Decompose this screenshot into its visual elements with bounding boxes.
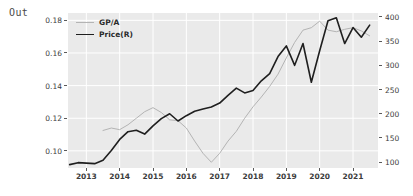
- y-left-tick-label: 0.12: [30, 114, 62, 123]
- y-left-tick-mark: [64, 150, 67, 151]
- x-tick-label: 2014: [109, 172, 130, 181]
- x-tick-mark: [186, 168, 187, 171]
- y-right-tick-label: 400: [385, 12, 399, 21]
- y-left-tick-label: 0.14: [30, 81, 62, 90]
- y-right-tick-label: 100: [385, 158, 399, 167]
- x-tick-mark: [286, 168, 287, 171]
- y-right-tick-label: 250: [385, 85, 399, 94]
- legend-entry: Price(R): [76, 30, 133, 39]
- y-left-tick-mark: [64, 85, 67, 86]
- x-tick-label: 2013: [76, 172, 97, 181]
- y-left-tick-label: 0.18: [30, 16, 62, 25]
- notebook-output-cell: Out 0.100.120.140.160.18 100150200250300…: [0, 0, 413, 196]
- y-left-tick-label: 0.10: [30, 146, 62, 155]
- legend-entry: GP/A: [76, 18, 133, 27]
- x-tick-label: 2020: [309, 172, 330, 181]
- y-right-tick-label: 300: [385, 61, 399, 70]
- y-right-tick-mark: [379, 65, 382, 66]
- chart-legend: GP/APrice(R): [74, 16, 137, 41]
- x-tick-label: 2018: [243, 172, 264, 181]
- y-right-tick-mark: [379, 113, 382, 114]
- x-tick-label: 2016: [176, 172, 197, 181]
- x-tick-mark: [119, 168, 120, 171]
- y-right-tick-mark: [379, 89, 382, 90]
- x-tick-mark: [153, 168, 154, 171]
- x-tick-label: 2019: [276, 172, 297, 181]
- y-right-tick-mark: [379, 137, 382, 138]
- x-tick-label: 2015: [143, 172, 164, 181]
- legend-line-swatch: [76, 22, 94, 23]
- y-right-tick-mark: [379, 41, 382, 42]
- series-line-gp-a: [103, 21, 370, 162]
- y-right-tick-mark: [379, 162, 382, 163]
- y-right-tick-label: 150: [385, 133, 399, 142]
- y-right-tick-label: 200: [385, 109, 399, 118]
- x-tick-mark: [319, 168, 320, 171]
- x-tick-mark: [253, 168, 254, 171]
- legend-label: GP/A: [99, 18, 119, 27]
- y-left-tick-label: 0.16: [30, 48, 62, 57]
- y-left-tick-mark: [64, 20, 67, 21]
- x-tick-mark: [86, 168, 87, 171]
- x-tick-label: 2021: [343, 172, 364, 181]
- legend-line-swatch: [76, 34, 94, 35]
- y-left-tick-mark: [64, 52, 67, 53]
- y-right-tick-label: 350: [385, 37, 399, 46]
- legend-label: Price(R): [99, 30, 133, 39]
- y-left-tick-mark: [64, 118, 67, 119]
- y-right-tick-mark: [379, 16, 382, 17]
- x-tick-mark: [353, 168, 354, 171]
- x-tick-label: 2017: [209, 172, 230, 181]
- x-tick-mark: [219, 168, 220, 171]
- chart-figure: 0.100.120.140.160.18 1001502002503003504…: [0, 0, 413, 196]
